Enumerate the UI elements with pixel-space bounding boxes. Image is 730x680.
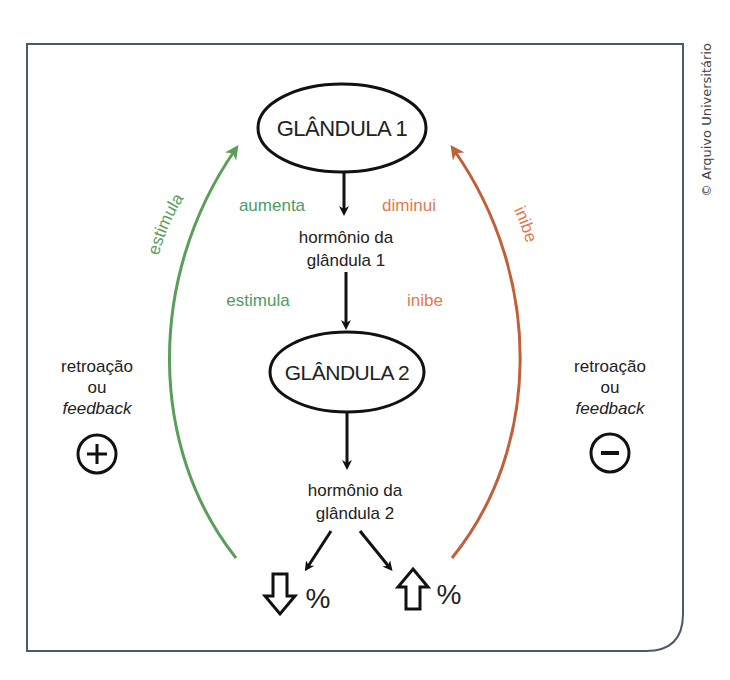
negative-arc-label: inibe [510, 203, 541, 244]
arrow-to-increase [360, 531, 390, 568]
arrow-to-decrease [307, 531, 331, 568]
positive-feedback-block: retroação ou feedback [61, 357, 133, 473]
negative-feedback-block: retroação ou feedback [574, 357, 646, 472]
minus-circle-icon [591, 434, 629, 472]
copyright-credit: © Arquivo Universitário [697, 35, 715, 205]
negative-feedback-line1: retroação [574, 357, 646, 376]
label-decreases: diminui [382, 196, 436, 215]
positive-feedback-line1: retroação [61, 357, 133, 376]
down-arrow-icon [265, 574, 295, 614]
positive-feedback-line3: feedback [63, 399, 133, 418]
feedback-diagram: GLÂNDULA 1 aumenta diminui hormônio da g… [0, 0, 730, 680]
gland-2-label: GLÂNDULA 2 [285, 361, 410, 384]
positive-feedback-line2: ou [88, 378, 107, 397]
hormone-2-line1: hormônio da [308, 481, 403, 500]
negative-feedback-line3: feedback [576, 399, 646, 418]
gland-2-node: GLÂNDULA 2 [270, 332, 424, 412]
plus-circle-icon [78, 435, 116, 473]
hormone-1-line2: glândula 1 [307, 251, 385, 270]
copyright-text: © Arquivo Universitário [699, 43, 714, 197]
up-arrow-icon [398, 569, 428, 609]
negative-arc-label-text: inibe [510, 203, 541, 244]
increase-percent: % [437, 579, 462, 610]
hormone-2-line2: glândula 2 [316, 504, 394, 523]
gland-1-node: GLÂNDULA 1 [258, 84, 426, 172]
positive-arc-label-text: estimula [144, 189, 187, 256]
label-stimulates: estimula [226, 291, 290, 310]
positive-arc-label: estimula [144, 189, 187, 256]
label-inhibits: inibe [407, 291, 443, 310]
negative-feedback-arc [452, 150, 520, 558]
decrease-percent: % [306, 583, 331, 614]
gland-1-label: GLÂNDULA 1 [277, 116, 408, 141]
hormone-1-line1: hormônio da [299, 228, 394, 247]
label-increases: aumenta [239, 196, 306, 215]
negative-feedback-line2: ou [601, 378, 620, 397]
